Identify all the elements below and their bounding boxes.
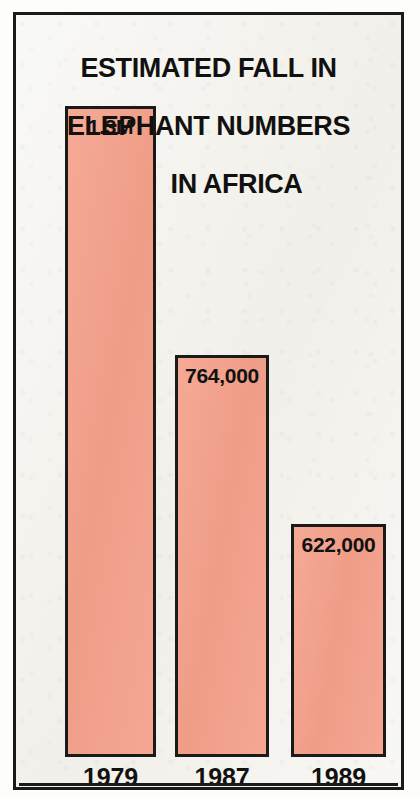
bar-1987: 764,000 [175, 355, 269, 757]
chart-title: ESTIMATED FALL IN ELEPHANT NUMBERS IN AF… [16, 25, 401, 228]
bar-shading [294, 527, 383, 754]
bar-value-label-1989: 622,000 [294, 533, 383, 557]
chart-frame: ESTIMATED FALL IN ELEPHANT NUMBERS IN AF… [13, 12, 404, 790]
bar-value-label-1987: 764,000 [178, 364, 266, 388]
chart-title-line-1: ESTIMATED FALL IN [16, 54, 401, 83]
bar-1989: 622,000 [291, 524, 386, 757]
chart-title-line-2: ELEPHANT NUMBERS [16, 112, 401, 141]
infographic-panel: ESTIMATED FALL IN ELEPHANT NUMBERS IN AF… [0, 0, 420, 798]
bar-shading [178, 358, 266, 754]
baseline-rule [19, 783, 398, 786]
chart-title-line-3: IN AFRICA [16, 170, 401, 199]
